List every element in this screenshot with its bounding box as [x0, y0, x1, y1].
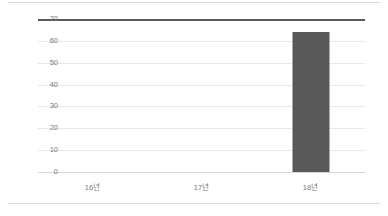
gridline-0	[38, 172, 365, 173]
y-tick-label: 40	[32, 81, 58, 89]
bar-chart: 010203040506070 16년17년18년	[0, 0, 388, 216]
bar[interactable]	[292, 32, 329, 172]
y-tick-label: 10	[32, 146, 58, 154]
bars-group	[38, 19, 365, 172]
y-tick-label: 20	[32, 125, 58, 133]
x-axis-labels: 16년17년18년	[38, 183, 365, 197]
y-tick-label: 30	[32, 103, 58, 111]
y-tick-label: 0	[32, 168, 58, 176]
x-tick-label: 17년	[147, 183, 256, 194]
y-tick-label: 70	[32, 15, 58, 23]
bar-slot	[147, 19, 256, 172]
y-tick-label: 60	[32, 37, 58, 45]
chart-top-border	[8, 2, 380, 3]
bar-slot	[256, 19, 365, 172]
x-tick-label: 16년	[38, 183, 147, 194]
y-tick-label: 50	[32, 59, 58, 67]
plot-area	[38, 19, 365, 172]
chart-bottom-border	[8, 203, 380, 204]
x-tick-label: 18년	[256, 183, 365, 194]
